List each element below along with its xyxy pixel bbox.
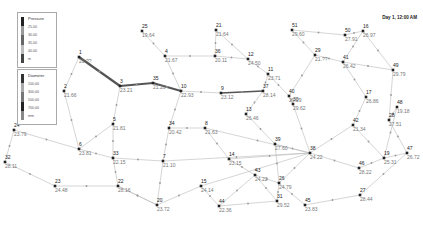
node-id-label: 7: [163, 153, 166, 159]
flow-arrow-icon: [71, 119, 73, 121]
flow-arrow-icon: [354, 79, 356, 81]
flow-arrow-icon: [367, 65, 369, 67]
node-id-label: 17: [366, 89, 372, 95]
junction-node[interactable]: 2228.16: [117, 178, 131, 193]
node-id-label: 22: [118, 178, 124, 184]
junction-node[interactable]: 1224.50: [247, 51, 261, 66]
node-id-label: 51: [292, 22, 298, 28]
junction-node[interactable]: 5129.60: [291, 22, 305, 37]
node-pressure-label: 22.15: [113, 159, 126, 165]
junction-node[interactable]: 3420.42: [168, 120, 182, 135]
node-pressure-label: 20.11: [215, 57, 227, 63]
junction-node[interactable]: 3824.22: [309, 145, 323, 160]
node-id-label: 46: [359, 160, 365, 166]
junction-node[interactable]: 3620.11: [214, 48, 228, 63]
node-id-label: 20: [157, 197, 163, 203]
junction-node[interactable]: 521.81: [112, 116, 126, 131]
node-pressure-label: 24.14: [201, 187, 214, 193]
junction-node[interactable]: 1726.86: [365, 89, 379, 104]
flow-arrow-icon: [265, 187, 267, 189]
node-id-label: 29: [315, 47, 321, 53]
diameter-tick: 500.00: [28, 98, 39, 102]
junction-node[interactable]: 4324.22: [254, 167, 268, 182]
flow-arrow-icon: [352, 46, 354, 48]
node-pressure-label: 21.34: [353, 126, 366, 132]
junction-node[interactable]: 2324.48: [54, 178, 68, 193]
node-pressure-label: 21.81: [113, 125, 126, 131]
flow-arrow-icon: [9, 145, 11, 147]
diameter-unit: mm: [28, 114, 34, 118]
junction-node[interactable]: 4628.22: [358, 160, 372, 175]
node-pressure-label: 29.52: [277, 202, 290, 208]
flow-arrow-icon: [318, 32, 320, 34]
flow-arrow-icon: [86, 185, 88, 187]
junction-nodes: 120.??221.66323.21421.67521.81623.81721.…: [4, 22, 420, 213]
junction-node[interactable]: 421.67: [164, 48, 178, 63]
junction-node[interactable]: 2121.64: [215, 22, 229, 37]
junction-node[interactable]: 1524.14: [200, 178, 214, 193]
node-id-label: 5: [113, 116, 116, 122]
node-id-label: 19: [384, 150, 390, 156]
junction-node[interactable]: 2921.??: [314, 47, 328, 62]
junction-node[interactable]: 2728.44: [359, 187, 373, 202]
network-diagram[interactable]: 120.??221.66323.21421.67521.81623.81721.…: [0, 0, 423, 227]
junction-node[interactable]: 5027.91: [344, 27, 358, 42]
node-id-label: 49: [393, 62, 399, 68]
junction-node[interactable]: 3927.60: [274, 136, 288, 151]
node-id-label: 42: [353, 117, 359, 123]
flow-arrow-icon: [395, 155, 397, 157]
flow-arrow-icon: [368, 141, 370, 143]
flow-arrow-icon: [254, 102, 256, 104]
node-id-label: 31: [277, 193, 283, 199]
junction-node[interactable]: 120.??: [78, 49, 92, 64]
diameter-tick: 100.00: [28, 82, 39, 86]
node-pressure-label: 29.29: [289, 97, 302, 103]
junction-node[interactable]: 2519.64: [141, 23, 155, 38]
junction-node[interactable]: 2827.51: [388, 112, 402, 127]
node-pressure-label: 23.81: [79, 150, 92, 156]
junction-node[interactable]: 3728.14: [262, 83, 276, 98]
diameter-tick: 300.00: [28, 90, 39, 94]
node-pressure-label: 29.62: [293, 105, 306, 111]
junction-node[interactable]: 221.66: [63, 83, 77, 98]
node-id-label: 6: [79, 141, 82, 147]
junction-node[interactable]: 1022.93: [180, 83, 194, 98]
flow-arrow-icon: [236, 190, 238, 192]
node-id-label: 15: [201, 178, 207, 184]
junction-node[interactable]: 3129.52: [276, 193, 290, 208]
network-map[interactable]: 120.??221.66323.21421.67521.81623.81721.…: [0, 0, 423, 227]
pressure-tick: 25.00: [28, 25, 37, 29]
flow-arrow-icon: [231, 57, 233, 59]
junction-node[interactable]: 4929.79: [392, 62, 406, 77]
junction-node[interactable]: 3322.15: [112, 150, 126, 165]
junction-node[interactable]: 1326.46: [245, 106, 259, 121]
node-pressure-label: 28.16: [118, 187, 131, 193]
flow-arrow-icon: [137, 195, 139, 197]
junction-node[interactable]: 1925.31: [383, 150, 397, 165]
junction-node[interactable]: 4126.42: [342, 54, 356, 69]
junction-node[interactable]: 1123.71: [267, 66, 281, 81]
node-id-label: 23: [55, 178, 61, 184]
node-pressure-label: 22.36: [219, 207, 232, 213]
junction-node[interactable]: 1626.97: [362, 23, 376, 38]
junction-node[interactable]: 623.81: [78, 141, 92, 156]
flow-arrow-icon: [334, 160, 336, 162]
junction-node[interactable]: 2023.72: [156, 197, 170, 212]
junction-node[interactable]: 4523.83: [304, 197, 318, 212]
node-id-label: 3: [120, 78, 123, 84]
node-id-label: 48: [397, 99, 403, 105]
node-id-label: 40: [289, 88, 295, 94]
junction-node[interactable]: 821.63: [204, 120, 218, 135]
junction-node[interactable]: 4221.34: [352, 117, 366, 132]
junction-node[interactable]: 4819.18: [396, 99, 410, 114]
flow-arrow-icon: [397, 136, 399, 138]
junction-node[interactable]: 3228.11: [4, 154, 18, 169]
node-pressure-label: 28.14: [263, 92, 276, 98]
flow-arrow-icon: [172, 73, 174, 75]
junction-node[interactable]: 3521.20: [152, 75, 166, 90]
node-id-label: 50: [345, 27, 351, 33]
node-id-label: 2: [64, 83, 67, 89]
node-pressure-label: 19.64: [142, 32, 155, 38]
junction-node[interactable]: 4726.72: [406, 145, 420, 160]
flow-arrow-icon: [29, 173, 31, 175]
